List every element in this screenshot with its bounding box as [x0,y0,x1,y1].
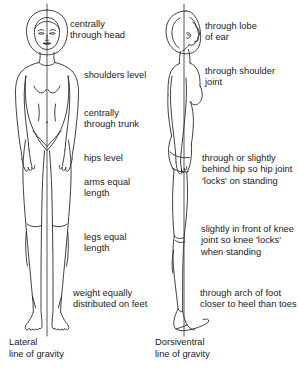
annotation-through-shoulder-joint: through shoulder joint [205,66,275,89]
caption-lateral-line-of-gravity: Lateral line of gravity [9,337,64,360]
annotation-hips-level: hips level [84,153,123,164]
annotation-centrally-through-trunk: centrally through trunk [84,108,139,131]
annotation-through-lobe-of-ear: through lobe of ear [205,21,257,44]
annotation-weight-equally-distributed: weight equally distributed on feet [73,288,147,311]
annotation-centrally-through-head: centrally through head [70,19,125,42]
caption-dorsiventral-line-of-gravity: Dorsiventral line of gravity [155,337,210,360]
annotation-shoulders-level: shoulders level [84,70,146,81]
annotation-through-arch-of-foot: through arch of foot closer to heel than… [200,288,297,311]
annotation-in-front-of-knee-joint: slightly in front of knee joint so knee … [201,224,294,258]
annotation-legs-equal-length: legs equal length [84,232,127,255]
annotation-through-or-behind-hip-joint: through or slightly behind hip so hip jo… [202,153,292,187]
body-alignment-diagram: centrally through head shoulders level c… [0,0,298,369]
annotation-arms-equal-length: arms equal length [84,177,130,200]
